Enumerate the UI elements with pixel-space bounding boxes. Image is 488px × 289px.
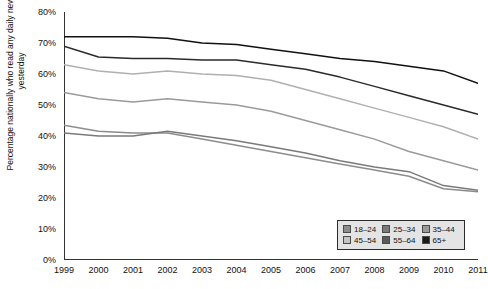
legend-swatch-icon xyxy=(343,225,351,233)
legend-swatch-icon xyxy=(343,236,351,244)
legend-item-label: 45–54 xyxy=(354,236,376,245)
series-line xyxy=(64,93,478,171)
legend-item-label: 65+ xyxy=(433,236,447,245)
legend-item[interactable]: 45–54 xyxy=(342,235,381,246)
y-axis-tick-label: 40% xyxy=(14,131,56,141)
y-axis-tick-label: 50% xyxy=(14,100,56,110)
newspaper-readership-line-chart: Percentage nationally who read any daily… xyxy=(0,0,488,289)
legend-row: 45–5455–6465+ xyxy=(342,235,460,246)
legend-item[interactable]: 55–64 xyxy=(381,235,420,246)
legend-row: 18–2425–3435–44 xyxy=(342,224,460,235)
legend-item[interactable]: 18–24 xyxy=(342,224,381,235)
legend: 18–2425–3435–4445–5455–6465+ xyxy=(337,220,465,250)
y-axis-tick-label: 70% xyxy=(14,38,56,48)
legend-item-label: 55–64 xyxy=(393,236,415,245)
y-axis-title: Percentage nationally who read any daily… xyxy=(5,0,27,171)
legend-item-label: 25–34 xyxy=(393,225,415,234)
legend-table: 18–2425–3435–4445–5455–6465+ xyxy=(342,224,460,246)
legend-swatch-icon xyxy=(422,225,430,233)
legend-swatch-icon xyxy=(382,236,390,244)
y-axis-tick-label: 0% xyxy=(14,255,56,265)
y-axis-tick-label: 20% xyxy=(14,193,56,203)
y-axis-tick-label: 60% xyxy=(14,69,56,79)
y-axis-tick-label: 30% xyxy=(14,162,56,172)
series-line xyxy=(64,37,478,84)
legend-item[interactable]: 25–34 xyxy=(381,224,420,235)
legend-swatch-icon xyxy=(422,236,430,244)
series-line xyxy=(64,131,478,190)
legend-swatch-icon xyxy=(382,225,390,233)
y-axis-tick-label: 10% xyxy=(14,224,56,234)
series-line xyxy=(64,125,478,192)
x-axis-tick-label: 2011 xyxy=(456,265,488,275)
legend-item-label: 18–24 xyxy=(354,225,376,234)
legend-item-label: 35–44 xyxy=(433,225,455,234)
legend-item[interactable]: 65+ xyxy=(421,235,460,246)
legend-item[interactable]: 35–44 xyxy=(421,224,460,235)
y-axis-tick-label: 80% xyxy=(14,7,56,17)
